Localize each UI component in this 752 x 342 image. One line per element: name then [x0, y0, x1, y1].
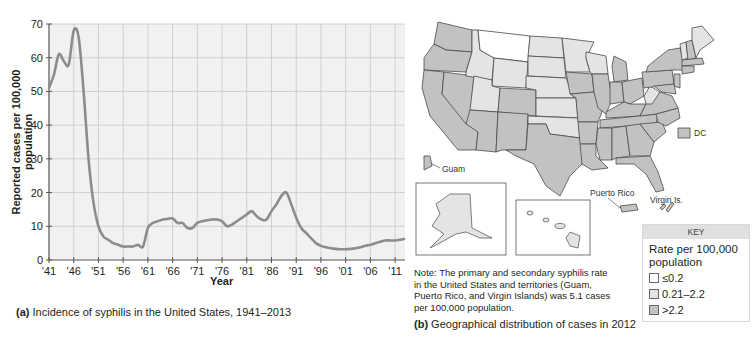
caption-b: (b) Geographical distribution of cases i…: [414, 318, 636, 330]
territory-guam: [424, 156, 432, 170]
puerto-rico-label: Puerto Rico: [590, 188, 634, 198]
caption-a-text: Incidence of syphilis in the United Stat…: [29, 306, 291, 318]
x-tick-label: '66: [165, 265, 179, 277]
key-item-label: >2.2: [662, 304, 684, 316]
swatch-mid: [649, 289, 659, 299]
state-ohio: [622, 78, 644, 104]
swatch-low: [649, 273, 659, 283]
x-tick-label: '11: [388, 265, 402, 277]
x-tick-label: '41: [42, 265, 56, 277]
x-tick-label: '96: [314, 265, 328, 277]
map-key: KEY Rate per 100,000 population ≤0.2 0.2…: [642, 224, 750, 322]
state-florida: [616, 156, 664, 192]
key-item-low: ≤0.2: [643, 270, 749, 285]
island-maui: [555, 224, 565, 229]
state-michigan: [612, 56, 628, 82]
virgin-islands-label: Virgin Is.: [650, 195, 683, 205]
state-wisconsin: [586, 52, 608, 74]
x-tick-label: '71: [190, 265, 204, 277]
x-tick-label: '91: [289, 265, 303, 277]
line-chart-plot: 010203040506070'41'46'51'56'61'66'71'76'…: [0, 0, 410, 300]
y-tick-label: 70: [31, 18, 43, 30]
swatch-high: [649, 305, 659, 315]
state-indiana: [610, 82, 624, 104]
state-new-mexico: [496, 112, 528, 152]
state-kansas: [536, 98, 578, 118]
key-item-high: >2.2: [643, 302, 749, 317]
caption-a-letter: (a): [16, 306, 29, 318]
key-item-label: 0.21–2.2: [662, 288, 705, 300]
dc-label: DC: [694, 128, 706, 138]
key-item-mid: 0.21–2.2: [643, 286, 749, 301]
caption-b-letter: (b): [414, 318, 428, 330]
state-colorado: [498, 88, 536, 116]
key-header: KEY: [643, 225, 749, 239]
state-south-dakota: [528, 56, 566, 78]
map-note: Note: The primary and secondary syphilis…: [414, 267, 614, 313]
state-wyoming: [492, 58, 528, 88]
state-arkansas: [578, 122, 598, 144]
x-tick-label: '51: [91, 265, 105, 277]
x-tick-label: '46: [67, 265, 81, 277]
state-mississippi: [596, 128, 612, 160]
x-axis-label: Year: [210, 275, 233, 287]
x-tick-label: '81: [240, 265, 254, 277]
plot-area: [49, 24, 405, 260]
x-tick-label: '56: [116, 265, 130, 277]
caption-b-text: Geographical distribution of cases in 20…: [428, 318, 636, 330]
state-new-york: [646, 48, 686, 72]
state-connecticut: [682, 66, 694, 74]
key-title: Rate per 100,000 population: [643, 239, 749, 269]
territory-puerto-rico: [620, 204, 638, 212]
x-tick-label: '86: [264, 265, 278, 277]
key-item-label: ≤0.2: [662, 272, 683, 284]
x-tick-label: '61: [141, 265, 155, 277]
state-new-jersey: [674, 74, 680, 88]
state-north-dakota: [528, 36, 564, 58]
x-tick-label: '06: [363, 265, 377, 277]
dc-swatch: [678, 128, 690, 138]
incidence-chart: 010203040506070'41'46'51'56'61'66'71'76'…: [0, 0, 410, 342]
y-axis-label: Reported cases per 100,000 population: [10, 52, 34, 232]
x-tick-label: '01: [338, 265, 352, 277]
guam-label: Guam: [442, 164, 465, 174]
state-maine: [692, 26, 714, 58]
island-kauai: [527, 211, 533, 215]
hawaii-inset: [516, 200, 590, 255]
island-oahu: [543, 218, 549, 222]
caption-a: (a) Incidence of syphilis in the United …: [16, 306, 291, 318]
state-iowa: [566, 72, 594, 94]
